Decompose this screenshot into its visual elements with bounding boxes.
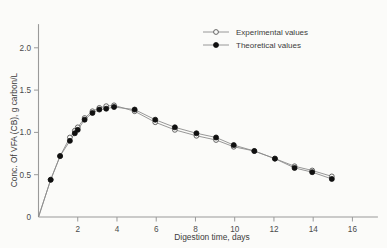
x-tick-label: 6 <box>154 225 159 234</box>
data-point-marker <box>292 165 297 170</box>
data-series <box>39 103 335 217</box>
x-axis-title: Digestion time, days <box>174 232 249 242</box>
x-tick-label: 4 <box>115 225 120 234</box>
legend-filled-circle-icon <box>214 43 219 48</box>
data-point-marker <box>82 117 87 122</box>
chart-canvas: 246810121416 00.51.01.52.0 Experimental … <box>0 0 387 248</box>
data-point-marker <box>153 117 158 122</box>
data-point-marker <box>310 170 315 175</box>
x-tick-label: 16 <box>348 225 358 234</box>
series-line-filled-circle <box>39 107 332 217</box>
data-point-marker <box>75 127 80 132</box>
data-point-marker <box>231 143 236 148</box>
y-tick-label: 1.5 <box>20 86 32 95</box>
data-point-marker <box>252 149 257 154</box>
y-tick-label: 1.0 <box>20 128 32 137</box>
x-tick-label: 12 <box>269 225 279 234</box>
data-point-marker <box>104 106 109 111</box>
data-point-marker <box>97 107 102 112</box>
data-point-marker <box>58 154 63 159</box>
axes <box>39 24 378 217</box>
x-tick-label: 14 <box>309 225 319 234</box>
y-axis-title: Conc. Of VFA (CB), g carbon/L <box>9 72 19 187</box>
data-point-marker <box>329 176 334 181</box>
data-point-marker <box>194 131 199 136</box>
y-tick-label: 0.5 <box>20 171 32 180</box>
data-point-marker <box>48 177 53 182</box>
data-point-marker <box>172 125 177 130</box>
data-point-marker <box>112 105 117 110</box>
y-tick-label: 2.0 <box>20 44 32 53</box>
legend-open-circle-icon <box>214 30 219 35</box>
chart-figure: 246810121416 00.51.01.52.0 Experimental … <box>0 0 387 248</box>
data-point-marker <box>272 156 277 161</box>
data-point-marker <box>132 107 137 112</box>
y-tick-label: 0 <box>26 213 31 222</box>
legend-item-label: Theoretical values <box>236 41 301 50</box>
data-point-marker <box>90 110 95 115</box>
legend-item-label: Experimental values <box>236 28 308 37</box>
y-axis-ticks: 00.51.01.52.0 <box>20 44 39 222</box>
data-point-marker <box>67 138 72 143</box>
data-point-marker <box>214 135 219 140</box>
chart-legend: Experimental valuesTheoretical values <box>203 28 308 50</box>
x-tick-label: 2 <box>75 225 80 234</box>
